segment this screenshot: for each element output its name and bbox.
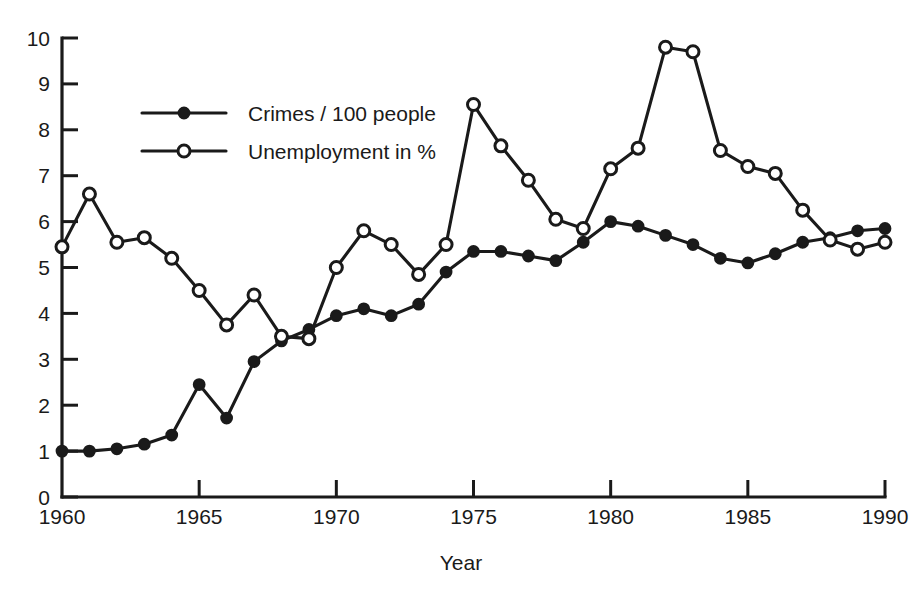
data-point-filled [688,239,698,249]
data-point-open [358,225,370,237]
y-axis-tick-label: 8 [38,118,50,141]
series-crimes [57,216,890,456]
x-axis-tick-label: 1965 [176,505,223,528]
x-axis-tick-label: 1990 [862,505,909,528]
data-point-open [660,41,672,53]
data-point-filled [194,379,204,389]
data-point-open [824,234,836,246]
data-point-filled [633,221,643,231]
series-unemployment [56,41,891,344]
y-axis-tick-label: 5 [38,256,50,279]
data-point-filled [57,446,67,456]
data-point-filled [798,237,808,247]
data-point-open [413,268,425,280]
y-axis-tick-label: 10 [27,27,50,50]
data-point-open [248,289,260,301]
y-axis-tick-label: 6 [38,210,50,233]
data-point-open [166,252,178,264]
data-point-open [879,236,891,248]
data-point-open [56,241,68,253]
data-point-open [138,232,150,244]
y-axis-tick-label: 7 [38,164,50,187]
data-point-filled [84,446,94,456]
data-point-filled [249,356,259,366]
x-axis: 1960196519701975198019851990 [39,480,909,528]
y-axis: 012345678910 [27,27,78,509]
data-point-open [797,204,809,216]
legend-label: Unemployment in % [248,140,436,163]
legend-label: Crimes / 100 people [248,102,436,125]
data-point-open [468,99,480,111]
x-axis-tick-label: 1960 [39,505,86,528]
data-point-filled [605,216,615,226]
data-point-filled [413,299,423,309]
data-point-open [577,222,589,234]
data-point-open [83,188,95,200]
data-point-filled [551,255,561,265]
data-point-filled [386,310,396,320]
data-point-open [495,140,507,152]
data-series-group [56,41,891,456]
series-line [62,47,885,338]
data-point-open [632,142,644,154]
legend-marker-filled [179,108,189,118]
data-point-filled [468,246,478,256]
line-chart-plot: 012345678910 196019651970197519801985199… [0,0,923,597]
data-point-filled [221,413,231,423]
data-point-open [714,144,726,156]
data-point-filled [167,430,177,440]
y-axis-tick-label: 2 [38,394,50,417]
data-point-open [852,243,864,255]
data-point-open [275,330,287,342]
y-axis-tick-label: 1 [38,440,50,463]
data-point-open [742,161,754,173]
data-point-open [221,319,233,331]
x-axis-tick-label: 1975 [450,505,497,528]
data-point-filled [523,251,533,261]
data-point-filled [578,237,588,247]
x-axis-tick-label: 1985 [724,505,771,528]
data-point-open [193,284,205,296]
data-point-filled [660,230,670,240]
data-point-open [303,333,315,345]
data-point-filled [112,444,122,454]
data-point-filled [743,258,753,268]
x-axis-title: Year [440,551,482,574]
data-point-open [385,239,397,251]
data-point-open [769,167,781,179]
x-axis-tick-label: 1970 [313,505,360,528]
data-point-filled [715,253,725,263]
y-axis-tick-label: 4 [38,302,50,325]
data-point-open [330,262,342,274]
y-axis-tick-label: 9 [38,72,50,95]
chart-legend: Crimes / 100 peopleUnemployment in % [142,102,436,163]
data-point-open [687,46,699,58]
data-point-open [550,213,562,225]
data-point-filled [770,249,780,259]
data-point-open [522,174,534,186]
data-point-filled [359,304,369,314]
data-point-filled [441,267,451,277]
data-point-filled [852,226,862,236]
data-point-open [440,239,452,251]
y-axis-tick-label: 3 [38,348,50,371]
data-point-filled [496,246,506,256]
data-point-filled [139,439,149,449]
data-point-filled [880,223,890,233]
legend-entry: Unemployment in % [142,140,436,163]
legend-marker-open [178,145,190,157]
data-point-open [111,236,123,248]
data-point-open [605,163,617,175]
data-point-filled [331,310,341,320]
x-axis-tick-label: 1980 [587,505,634,528]
chart-container: 012345678910 196019651970197519801985199… [0,0,923,597]
legend-entry: Crimes / 100 people [142,102,436,125]
